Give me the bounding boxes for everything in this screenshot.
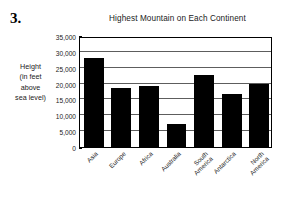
- bar-slot: [135, 38, 163, 147]
- y-axis-label-line: Height: [8, 62, 53, 72]
- x-axis-tick-labels: AsiaEuropeAfricaAustraliaSouthAmericaAnt…: [79, 148, 272, 202]
- bar[interactable]: [222, 94, 242, 147]
- y-axis-tick-label: 15,000: [48, 97, 76, 104]
- bar[interactable]: [84, 58, 104, 147]
- y-axis-tick-label: 30,000: [48, 49, 76, 56]
- bar[interactable]: [139, 86, 159, 147]
- bar[interactable]: [194, 75, 214, 147]
- y-axis-tick-label: 5,000: [48, 129, 76, 136]
- bar-series: [80, 38, 271, 147]
- bar-slot: [80, 38, 108, 147]
- chart-figure: 3. Highest Mountain on Each Continent He…: [0, 0, 291, 203]
- y-axis-label-line: sea level): [8, 93, 53, 103]
- y-axis-tick-label: 35,000: [48, 34, 76, 41]
- chart-title: Highest Mountain on Each Continent: [75, 14, 280, 24]
- bar-slot: [108, 38, 136, 147]
- y-axis-label: Height (in feet above sea level): [8, 62, 53, 104]
- problem-number: 3.: [10, 11, 21, 26]
- bar-slot: [218, 38, 246, 147]
- y-axis-label-line: (in feet: [8, 72, 53, 82]
- bar[interactable]: [167, 124, 187, 147]
- y-axis-tick-label: 25,000: [48, 65, 76, 72]
- bar[interactable]: [111, 88, 131, 147]
- bar[interactable]: [249, 84, 269, 147]
- y-axis-tick-labels: 05,00010,00015,00020,00025,00030,00035,0…: [48, 37, 76, 148]
- y-axis-label-line: above: [8, 83, 53, 93]
- bar-slot: [163, 38, 191, 147]
- plot-area: [79, 37, 272, 148]
- y-axis-tick-label: 10,000: [48, 113, 76, 120]
- y-axis-tick-label: 20,000: [48, 81, 76, 88]
- bar-slot: [190, 38, 218, 147]
- bar-slot: [245, 38, 273, 147]
- y-axis-tick-label: 0: [48, 145, 76, 152]
